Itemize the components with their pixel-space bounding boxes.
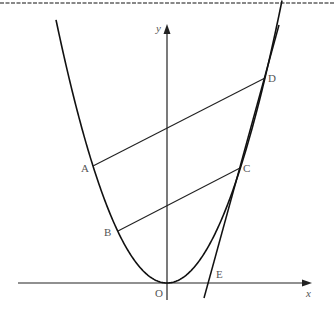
point-A-label: A	[81, 162, 89, 174]
origin-label: O	[155, 287, 163, 299]
point-C-label: C	[243, 162, 250, 174]
y-axis-label: y	[155, 22, 161, 34]
tangent-line-CE	[204, 25, 279, 298]
parabola-curve	[56, 1, 282, 283]
chord-AD	[93, 78, 265, 166]
x-axis-label: x	[305, 287, 311, 299]
point-E-label: E	[216, 268, 223, 280]
x-axis-arrow-icon	[302, 280, 312, 287]
diagram-canvas: y x O A B C D E	[0, 0, 334, 314]
y-axis-arrow-icon	[164, 24, 171, 34]
point-D-label: D	[268, 72, 276, 84]
chord-BC	[118, 168, 240, 231]
point-B-label: B	[104, 226, 111, 238]
